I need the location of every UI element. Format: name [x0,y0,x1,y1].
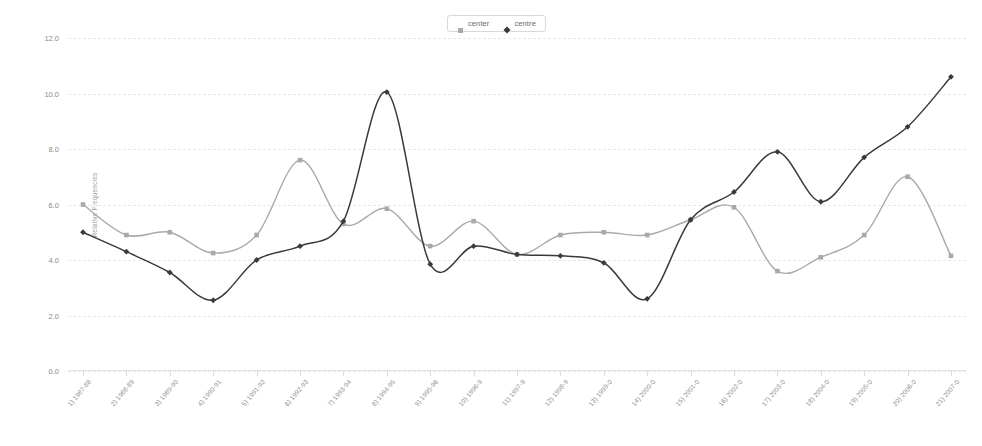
data-point[interactable] [210,297,216,303]
x-tick-label: 9) 1995-96 [413,378,439,407]
data-point[interactable] [818,199,824,205]
x-tick-label: 21) 2007-0 [934,378,960,407]
data-point[interactable] [297,243,303,249]
y-tick-label: 0.0 [49,367,59,376]
data-point[interactable] [862,233,867,238]
data-point[interactable] [385,206,390,211]
data-point[interactable] [558,233,563,238]
x-tick-label: 18) 2004-0 [804,378,830,407]
legend-item-centre[interactable]: centre [503,19,535,28]
data-point[interactable] [124,233,129,238]
x-tick-label: 1) 1987-88 [66,378,92,407]
data-point[interactable] [211,251,216,256]
data-point[interactable] [645,233,650,238]
data-point[interactable] [471,219,476,224]
legend-item-center[interactable]: center [457,19,489,28]
x-tick-label: 11) 1997-9 [500,378,526,407]
x-tick [387,371,388,376]
x-tick [908,371,909,376]
data-point[interactable] [905,174,910,179]
x-tick [430,371,431,376]
x-tick-label: 19) 2005-0 [847,378,873,407]
x-tick-label: 7) 1993-94 [327,378,353,407]
x-tick [777,371,778,376]
data-point[interactable] [775,149,781,155]
x-tick [170,371,171,376]
x-tick-label: 20) 2006-0 [891,378,917,407]
line-chart: center centre Relative Frequencies 0.02.… [0,0,982,446]
x-tick [517,371,518,376]
diamond-marker-icon [503,20,510,27]
y-tick-label: 4.0 [49,256,59,265]
x-tick-label: 3) 1989-90 [153,378,179,407]
x-tick [951,371,952,376]
data-point[interactable] [168,230,173,235]
x-tick-label: 12) 1998-9 [544,378,570,407]
plot-area: Relative Frequencies 0.02.04.06.08.010.0… [68,38,966,371]
y-tick-label: 8.0 [49,145,59,154]
data-point[interactable] [732,205,737,210]
data-point[interactable] [819,255,824,260]
data-point[interactable] [80,229,86,235]
data-point[interactable] [602,230,607,235]
legend-label-center: center [468,19,489,28]
x-tick-label: 8) 1994-95 [370,378,396,407]
y-tick-label: 2.0 [49,311,59,320]
data-point[interactable] [81,202,86,207]
series-line [83,77,951,301]
series-layer [68,38,966,371]
x-tick [821,371,822,376]
y-tick-label: 6.0 [49,200,59,209]
y-tick-label: 10.0 [44,89,59,98]
chart-legend: center centre [447,15,546,32]
x-tick-label: 17) 2003-0 [761,378,787,407]
x-tick [343,371,344,376]
x-tick [864,371,865,376]
legend-label-centre: centre [514,19,535,28]
series-centre [80,74,954,303]
data-point[interactable] [949,254,954,259]
x-tick [83,371,84,376]
data-point[interactable] [124,249,130,255]
x-tick-label: 13) 1999-0 [587,378,613,407]
data-point[interactable] [775,269,780,274]
data-point[interactable] [254,233,259,238]
x-tick [213,371,214,376]
data-point[interactable] [471,243,477,249]
data-point[interactable] [298,158,303,163]
data-point[interactable] [428,244,433,249]
x-tick [691,371,692,376]
x-tick-label: 15) 2001-0 [674,378,700,407]
x-tick-label: 2) 1988-89 [110,378,136,407]
x-tick [257,371,258,376]
x-tick-label: 14) 2000-0 [630,378,656,407]
x-tick-label: 10) 1996-9 [457,378,483,407]
x-tick [300,371,301,376]
x-tick [604,371,605,376]
square-marker-icon [457,20,464,27]
y-tick-label: 12.0 [44,34,59,43]
x-tick [474,371,475,376]
x-tick [560,371,561,376]
x-tick-label: 5) 1991-92 [240,378,266,407]
x-tick [126,371,127,376]
x-tick-label: 6) 1992-93 [283,378,309,407]
data-point[interactable] [558,253,564,259]
x-tick [734,371,735,376]
x-tick-label: 4) 1990-91 [196,378,222,407]
x-tick [647,371,648,376]
x-tick-label: 16) 2002-0 [717,378,743,407]
